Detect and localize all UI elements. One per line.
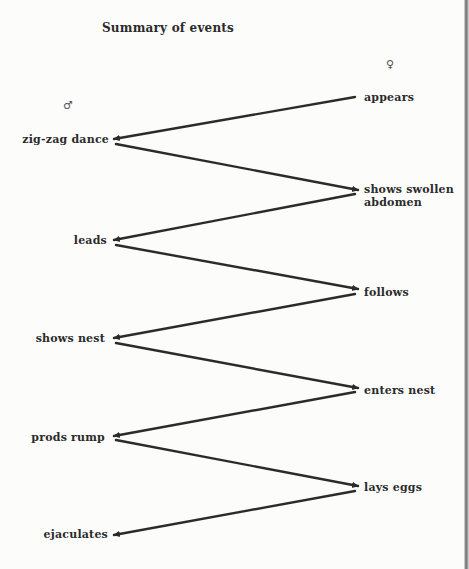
arrow-prods-rump-to-lays-eggs [116, 440, 358, 486]
arrow-enters-nest-to-prods-rump [114, 392, 355, 436]
arrow-leads-to-follows [116, 245, 358, 289]
arrow-shows-nest-to-enters-nest [116, 343, 358, 388]
arrow-lays-eggs-to-ejaculates [114, 491, 355, 535]
arrow-zig-zag-to-swollen [116, 144, 358, 190]
arrow-follows-to-shows-nest [114, 294, 355, 338]
arrow-appears-to-zig-zag [114, 97, 355, 139]
zigzag-arrows [0, 0, 469, 569]
arrow-swollen-to-leads [114, 194, 355, 240]
